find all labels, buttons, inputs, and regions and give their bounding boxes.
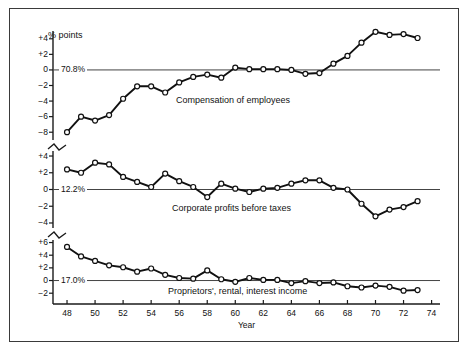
x-tick-label: 56 xyxy=(167,308,191,318)
chart-canvas xyxy=(0,0,468,351)
x-tick-label: 52 xyxy=(111,308,135,318)
y-tick-label: −4 xyxy=(2,96,48,106)
y-tick-label: +2 xyxy=(2,49,48,59)
y-tick-label: −6 xyxy=(2,111,48,121)
series-label-compensation-of-employees: Compensation of employees xyxy=(176,95,290,105)
baseline-percent-label: 70.8% xyxy=(59,64,87,74)
y-tick-label: 0 xyxy=(2,275,48,285)
y-tick-label: −2 xyxy=(2,80,48,90)
y-axis-unit-label: % points xyxy=(48,30,83,40)
y-tick-label: +4 xyxy=(2,33,48,43)
x-tick-label: 70 xyxy=(364,308,388,318)
x-tick-label: 64 xyxy=(279,308,303,318)
x-axis xyxy=(53,297,440,304)
figure: % points+4+20−2−4−6−870.8%Compensation o… xyxy=(0,0,468,351)
y-tick-label: 0 xyxy=(2,184,48,194)
x-tick-label: 68 xyxy=(335,308,359,318)
x-tick-label: 50 xyxy=(83,308,107,318)
x-tick-label: 66 xyxy=(307,308,331,318)
x-tick-label: 48 xyxy=(55,308,79,318)
y-tick-label: +4 xyxy=(2,151,48,161)
x-tick-label: 72 xyxy=(392,308,416,318)
x-tick-label: 60 xyxy=(223,308,247,318)
x-tick-label: 62 xyxy=(251,308,275,318)
baseline-percent-label: 17.0% xyxy=(59,275,87,285)
baseline-percent-label: 12.2% xyxy=(59,184,87,194)
x-tick-label: 58 xyxy=(195,308,219,318)
series-label-corporate-profits-before-taxes: Corporate profits before taxes xyxy=(172,203,291,213)
y-tick-label: +2 xyxy=(2,167,48,177)
panel-corporate-profits-before-taxes xyxy=(48,151,440,238)
y-tick-label: −4 xyxy=(2,217,48,227)
x-tick-label: 74 xyxy=(420,308,444,318)
panel-compensation-of-employees xyxy=(48,29,440,150)
y-tick-label: −2 xyxy=(2,288,48,298)
series-label-proprietors-rental-interest-income: Proprietors', rental, interest income xyxy=(168,286,307,296)
y-tick-label: +6 xyxy=(2,237,48,247)
x-tick-label: 54 xyxy=(139,308,163,318)
y-tick-label: −8 xyxy=(2,127,48,137)
y-tick-label: 0 xyxy=(2,64,48,74)
y-tick-label: +2 xyxy=(2,262,48,272)
y-tick-label: +4 xyxy=(2,250,48,260)
x-axis-title: Year xyxy=(53,320,440,330)
y-tick-label: −2 xyxy=(2,201,48,211)
